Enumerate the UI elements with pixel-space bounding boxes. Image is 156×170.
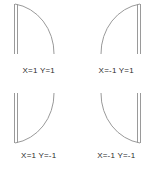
arc-figure-bottom-right (86, 87, 146, 145)
quarter-arc (101, 93, 140, 143)
caption-top-left: X=1 Y=1 (23, 66, 55, 76)
quadrant-bottom-left: X=1 Y=-1 (0, 85, 78, 170)
arc-figure-bottom-left (9, 87, 69, 145)
caption-bottom-left: X=1 Y=-1 (21, 151, 56, 161)
quarter-arc (15, 4, 54, 54)
quarter-arc (101, 4, 140, 54)
arc-figure-top-left (9, 2, 69, 60)
quadrant-top-left: X=1 Y=1 (0, 0, 78, 85)
caption-bottom-right: X=-1 Y=-1 (97, 151, 135, 161)
quadrant-bottom-right: X=-1 Y=-1 (78, 85, 156, 170)
quadrant-top-right: X=-1 Y=1 (78, 0, 156, 85)
caption-top-right: X=-1 Y=1 (99, 66, 134, 76)
arc-orientation-grid: X=1 Y=1 X=-1 Y=1 X=1 Y=-1 (0, 0, 155, 169)
arc-figure-top-right (86, 2, 146, 60)
quarter-arc (15, 93, 54, 143)
